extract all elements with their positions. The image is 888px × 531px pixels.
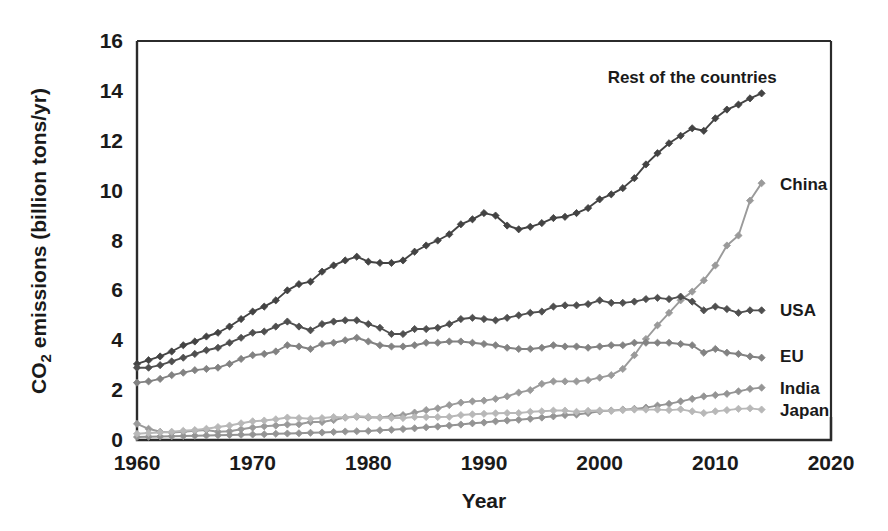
data-point-marker <box>619 406 626 413</box>
data-point-marker <box>249 352 256 359</box>
series-line <box>137 183 762 432</box>
y-tick-label: 6 <box>111 278 123 301</box>
data-point-marker <box>249 431 256 438</box>
data-point-marker <box>307 429 314 436</box>
x-tick-label: 1970 <box>229 451 276 474</box>
data-point-marker <box>365 320 372 327</box>
data-point-marker <box>446 338 453 345</box>
data-point-marker <box>411 342 418 349</box>
data-point-marker <box>214 344 221 351</box>
data-point-marker <box>723 305 730 312</box>
data-point-marker <box>504 314 511 321</box>
data-series-group <box>133 90 765 441</box>
data-point-marker <box>226 360 233 367</box>
data-point-marker <box>677 340 684 347</box>
data-point-marker <box>191 426 198 433</box>
data-point-marker <box>642 296 649 303</box>
data-point-marker <box>434 324 441 331</box>
data-point-marker <box>504 344 511 351</box>
data-point-marker <box>758 384 765 391</box>
data-point-marker <box>746 95 753 102</box>
data-point-marker <box>758 354 765 361</box>
data-point-marker <box>619 342 626 349</box>
data-point-marker <box>423 242 430 249</box>
data-point-marker <box>284 414 291 421</box>
data-point-marker <box>434 405 441 412</box>
data-point-marker <box>480 315 487 322</box>
data-point-marker <box>376 427 383 434</box>
data-point-marker <box>538 344 545 351</box>
data-point-marker <box>203 333 210 340</box>
data-point-marker <box>399 330 406 337</box>
data-point-marker <box>423 339 430 346</box>
data-point-marker <box>585 300 592 307</box>
series-label-india: India <box>780 379 820 398</box>
series-line <box>137 297 762 368</box>
data-point-marker <box>504 409 511 416</box>
data-point-marker <box>295 323 302 330</box>
data-point-marker <box>399 425 406 432</box>
data-point-marker <box>353 413 360 420</box>
data-point-marker <box>261 431 268 438</box>
data-point-marker <box>515 416 522 423</box>
series-label-usa: USA <box>780 301 816 320</box>
data-point-marker <box>318 340 325 347</box>
data-point-marker <box>376 259 383 266</box>
y-tick-label: 14 <box>100 79 124 102</box>
data-point-marker <box>480 340 487 347</box>
data-point-marker <box>203 365 210 372</box>
y-tick-label: 16 <box>100 29 123 52</box>
data-point-marker <box>272 323 279 330</box>
y-tick-label: 2 <box>111 378 123 401</box>
chart-figure: 0246810121416 19601970198019902000201020… <box>0 0 888 531</box>
data-point-marker <box>608 407 615 414</box>
x-tick-label: 2010 <box>692 451 739 474</box>
data-point-marker <box>342 317 349 324</box>
data-point-marker <box>469 398 476 405</box>
y-tick-label: 10 <box>100 179 123 202</box>
data-point-marker <box>388 343 395 350</box>
data-point-marker <box>712 408 719 415</box>
y-axis-title-post: emissions (billion tons/yr) <box>27 88 50 354</box>
data-point-marker <box>157 353 164 360</box>
y-tick-label: 12 <box>100 129 123 152</box>
data-point-marker <box>527 387 534 394</box>
data-point-marker <box>411 413 418 420</box>
data-point-marker <box>388 426 395 433</box>
data-point-marker <box>191 350 198 357</box>
data-point-marker <box>723 390 730 397</box>
data-point-marker <box>677 406 684 413</box>
data-point-marker <box>365 258 372 265</box>
data-point-marker <box>376 342 383 349</box>
data-point-marker <box>515 409 522 416</box>
data-point-marker <box>446 413 453 420</box>
data-point-marker <box>261 417 268 424</box>
data-point-marker <box>214 329 221 336</box>
data-point-marker <box>411 325 418 332</box>
data-point-marker <box>735 405 742 412</box>
data-point-marker <box>457 411 464 418</box>
data-point-marker <box>157 375 164 382</box>
data-point-marker <box>434 237 441 244</box>
data-point-marker <box>746 353 753 360</box>
data-point-marker <box>585 377 592 384</box>
data-point-marker <box>145 378 152 385</box>
data-point-marker <box>318 320 325 327</box>
data-point-marker <box>596 374 603 381</box>
data-point-marker <box>538 408 545 415</box>
y-axis-title: CO2 emissions (billion tons/yr) <box>27 88 54 394</box>
x-axis-tick-labels: 1960197019801990200020102020 <box>114 451 855 474</box>
data-point-marker <box>735 388 742 395</box>
x-tick-label: 1990 <box>461 451 508 474</box>
data-point-marker <box>214 423 221 430</box>
data-point-marker <box>469 216 476 223</box>
data-point-marker <box>723 349 730 356</box>
data-point-marker <box>353 317 360 324</box>
data-point-marker <box>249 329 256 336</box>
data-point-marker <box>573 302 580 309</box>
data-point-marker <box>469 339 476 346</box>
series-label-china: China <box>780 175 828 194</box>
data-point-marker <box>133 379 140 386</box>
x-tick-label: 1960 <box>114 451 161 474</box>
data-point-marker <box>550 378 557 385</box>
